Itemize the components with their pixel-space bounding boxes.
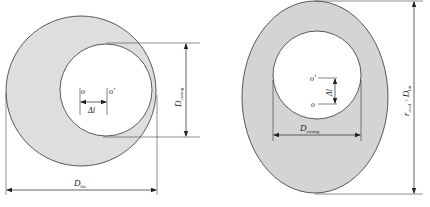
center-o-prime-label: o' (310, 74, 316, 83)
borehole-diagram: o o' Δl Dcasing Dbit o' o Δl Dcasing rov… (0, 0, 430, 207)
center-o-prime-label: o' (109, 87, 115, 96)
center-o-label: o (311, 100, 315, 109)
oval-borehole-figure: o' o Δl Dcasing roval · Dbit (242, 1, 423, 194)
casing-inner-circle (60, 44, 152, 136)
bit-diameter-label: Dbit (73, 178, 86, 189)
casing-inner-circle (273, 31, 361, 119)
eccentric-borehole-figure: o o' Δl Dcasing Dbit (6, 16, 200, 195)
offset-label: Δl (325, 88, 334, 97)
center-o-label: o (81, 87, 85, 96)
casing-diameter-label: Dcasing (173, 87, 184, 108)
offset-label: Δl (87, 106, 96, 115)
oval-ratio-label: roval · Dbit (401, 85, 412, 116)
